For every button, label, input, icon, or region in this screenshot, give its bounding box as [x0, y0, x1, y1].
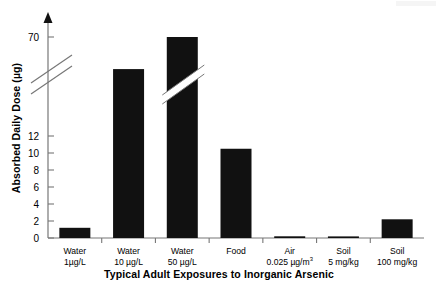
bar	[328, 236, 359, 238]
bar	[59, 228, 90, 238]
y-tick-label: 8	[33, 165, 39, 176]
bar	[221, 149, 252, 238]
y-tick-label: 70	[28, 32, 40, 43]
plot-area: 02468101270	[0, 0, 438, 287]
bar	[274, 236, 305, 238]
y-axis-break-marker	[31, 55, 72, 94]
chart-figure: Absorbed Daily Dose (µg) 02468101270 Wat…	[0, 0, 438, 287]
bar	[113, 69, 144, 238]
y-tick-label: 10	[28, 148, 40, 159]
x-axis-category-label: Soil100 mg/kg	[347, 246, 438, 267]
x-axis-title: Typical Adult Exposures to Inorganic Ars…	[0, 268, 438, 280]
y-tick-label: 6	[33, 182, 39, 193]
y-axis-arrow-icon	[44, 12, 53, 23]
bar	[167, 37, 198, 238]
y-tick-label: 4	[33, 199, 39, 210]
bar	[382, 219, 413, 238]
y-tick-label: 2	[33, 216, 39, 227]
y-tick-label: 12	[28, 131, 40, 142]
y-tick-label: 0	[33, 233, 39, 244]
